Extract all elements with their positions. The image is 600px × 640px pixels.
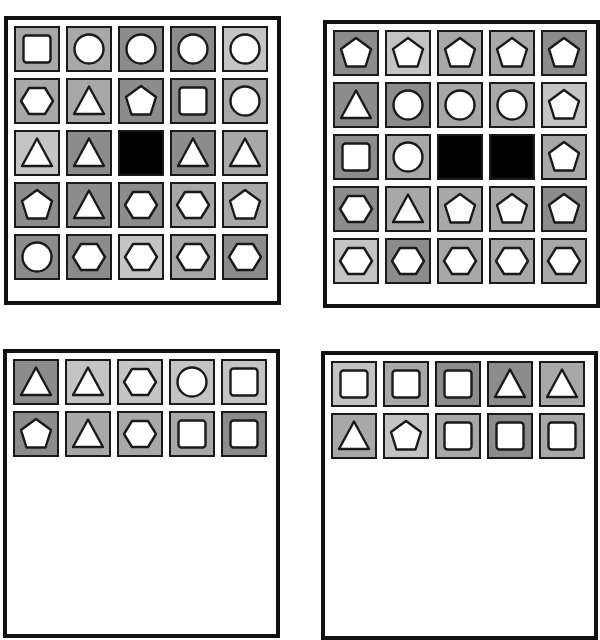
- grid-cell: [383, 413, 429, 459]
- grid-cell: [66, 182, 112, 228]
- grid-cell: [222, 78, 268, 124]
- grid-cell: [14, 130, 60, 176]
- grid-cell: [331, 413, 377, 459]
- grid-cell: [170, 26, 216, 72]
- grid-cell: [437, 186, 483, 232]
- grid-cell: [14, 26, 60, 72]
- missing-cell: [437, 134, 483, 180]
- puzzle-panel-top-right: [323, 20, 600, 308]
- grid-cell: [489, 238, 535, 284]
- grid-cell: [117, 359, 163, 405]
- grid-cell: [385, 134, 431, 180]
- grid-cell: [13, 359, 59, 405]
- grid-cell: [65, 411, 111, 457]
- grid-cell: [14, 182, 60, 228]
- grid-cell: [66, 26, 112, 72]
- grid-cell: [541, 30, 587, 76]
- grid-cell: [169, 411, 215, 457]
- grid-cell: [487, 361, 533, 407]
- grid-cell: [170, 130, 216, 176]
- grid-cell: [222, 26, 268, 72]
- grid-cell: [333, 30, 379, 76]
- grid-cell: [385, 82, 431, 128]
- grid-cell: [385, 238, 431, 284]
- grid-cell: [170, 234, 216, 280]
- grid-cell: [333, 134, 379, 180]
- grid-cell: [118, 26, 164, 72]
- grid-cell: [117, 411, 163, 457]
- grid-cell: [65, 359, 111, 405]
- grid-cell: [331, 361, 377, 407]
- grid-cell: [222, 234, 268, 280]
- puzzle-panel-bottom-right: [321, 351, 598, 640]
- grid-cell: [333, 238, 379, 284]
- grid-cell: [437, 30, 483, 76]
- grid-cell: [489, 186, 535, 232]
- grid-cell: [487, 413, 533, 459]
- grid-cell: [170, 182, 216, 228]
- puzzle-panel-bottom-left: [3, 349, 280, 638]
- grid-cell: [66, 78, 112, 124]
- grid-cell: [385, 186, 431, 232]
- grid-cell: [118, 234, 164, 280]
- grid-cell: [435, 413, 481, 459]
- grid-cell: [541, 186, 587, 232]
- grid-cell: [489, 30, 535, 76]
- grid-cell: [333, 186, 379, 232]
- grid-cell: [169, 359, 215, 405]
- grid-cell: [539, 361, 585, 407]
- grid-cell: [383, 361, 429, 407]
- grid-cell: [66, 234, 112, 280]
- grid-cell: [14, 78, 60, 124]
- grid-cell: [118, 78, 164, 124]
- grid-cell: [221, 411, 267, 457]
- grid-cell: [489, 82, 535, 128]
- grid-cell: [333, 82, 379, 128]
- grid-cell: [385, 30, 431, 76]
- grid-cell: [118, 182, 164, 228]
- grid-cell: [66, 130, 112, 176]
- grid-cell: [541, 238, 587, 284]
- grid-cell: [539, 413, 585, 459]
- grid-cell: [541, 134, 587, 180]
- grid-cell: [221, 359, 267, 405]
- missing-cell: [118, 130, 164, 176]
- grid-cell: [437, 82, 483, 128]
- grid-cell: [435, 361, 481, 407]
- grid-cell: [13, 411, 59, 457]
- grid-cell: [170, 78, 216, 124]
- puzzle-panel-top-left: [4, 16, 281, 305]
- grid-cell: [222, 130, 268, 176]
- grid-cell: [437, 238, 483, 284]
- missing-cell: [489, 134, 535, 180]
- grid-cell: [541, 82, 587, 128]
- grid-cell: [14, 234, 60, 280]
- grid-cell: [222, 182, 268, 228]
